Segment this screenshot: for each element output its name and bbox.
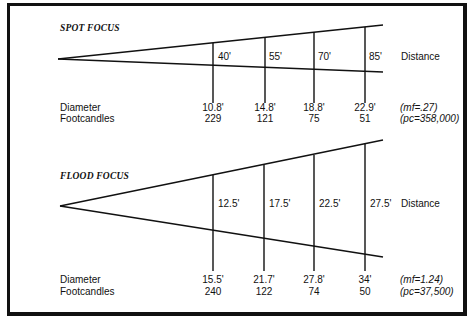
flood-footcandles-2: 122 xyxy=(249,286,279,297)
flood-pc-note: (pc=37,500) xyxy=(400,286,454,297)
spot-mf-note: (mf=.27) xyxy=(400,102,438,113)
spot-footcandles-2: 121 xyxy=(250,113,280,124)
spot-footcandles-3: 75 xyxy=(299,113,329,124)
spot-distance-1: 40' xyxy=(218,51,231,62)
spot-footcandles-1: 229 xyxy=(198,113,228,124)
flood-beam-bottom-edge xyxy=(60,206,383,257)
flood-diameter-1: 15.5' xyxy=(198,274,228,285)
spot-distance-4: 85' xyxy=(369,51,382,62)
flood-footcandles-4: 50 xyxy=(350,286,380,297)
beam-diagram-lines xyxy=(0,0,472,318)
spot-focus-title: SPOT FOCUS xyxy=(60,23,120,33)
spot-diameter-1: 10.8' xyxy=(198,102,228,113)
flood-diameter-3: 27.8' xyxy=(299,274,329,285)
flood-focus-title: FLOOD FOCUS xyxy=(60,171,129,181)
flood-distance-2: 17.5' xyxy=(269,198,290,209)
flood-diameter-2: 21.7' xyxy=(249,274,279,285)
flood-footcandles-3: 74 xyxy=(299,286,329,297)
spot-distance-3: 70' xyxy=(318,51,331,62)
spot-footcandles-label: Footcandles xyxy=(60,113,114,124)
flood-diameter-label: Diameter xyxy=(60,274,101,285)
spot-distance-label: Distance xyxy=(401,51,440,62)
spot-diameter-2: 14.8' xyxy=(250,102,280,113)
spot-pc-note: (pc=358,000) xyxy=(400,113,459,124)
spot-diameter-3: 18.8' xyxy=(299,102,329,113)
flood-distance-1: 12.5' xyxy=(218,198,239,209)
spot-distance-2: 55' xyxy=(269,51,282,62)
spot-diameter-label: Diameter xyxy=(60,102,101,113)
spot-footcandles-4: 51 xyxy=(350,113,380,124)
flood-distance-4: 27.5' xyxy=(370,198,391,209)
flood-footcandles-label: Footcandles xyxy=(60,286,114,297)
flood-mf-note: (mf=1.24) xyxy=(400,274,443,285)
flood-distance-3: 22.5' xyxy=(319,198,340,209)
flood-diameter-4: 34' xyxy=(350,274,380,285)
flood-distance-label: Distance xyxy=(401,198,440,209)
spot-diameter-4: 22.9' xyxy=(350,102,380,113)
flood-footcandles-1: 240 xyxy=(198,286,228,297)
